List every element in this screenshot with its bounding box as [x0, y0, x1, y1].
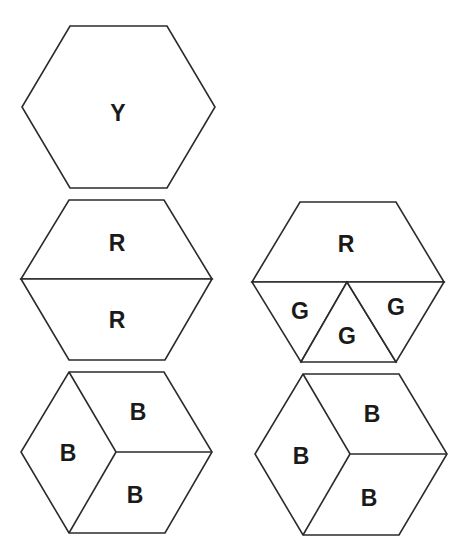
hexagon-red-green: R G G G [252, 202, 444, 362]
piece-label-blue-left: B [60, 440, 77, 466]
piece-label-red: R [338, 231, 355, 257]
piece-label-red-bottom: R [109, 307, 126, 333]
piece-label-red-top: R [109, 230, 126, 256]
piece-label-blue-top-right: B [364, 401, 381, 427]
piece-label-yellow: Y [110, 100, 125, 126]
hexagon-blue-right: B B B [255, 374, 447, 535]
hexagon-blue-left: B B B [21, 372, 212, 533]
piece-label-green-right: G [387, 294, 405, 320]
piece-label-blue-top-right: B [130, 399, 147, 425]
piece-label-blue-left: B [293, 443, 310, 469]
piece-label-blue-bottom-right: B [127, 482, 144, 508]
piece-label-blue-bottom-right: B [361, 485, 378, 511]
piece-label-green-middle: G [338, 323, 356, 349]
hexagon-yellow: Y [22, 26, 215, 188]
hexagon-two-red: R R [21, 200, 212, 360]
pattern-block-diagram: Y R R R G G G B B B B B B [0, 0, 458, 556]
piece-label-green-left: G [291, 298, 309, 324]
